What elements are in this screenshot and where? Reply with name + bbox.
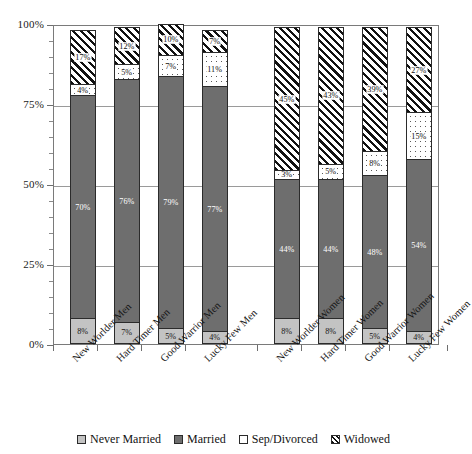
bar-segment-value-label: 7% xyxy=(122,328,133,337)
plot-area: 17%4%70%8%12%5%76%7%10%7%79%5%7%11%77%4%… xyxy=(53,25,439,345)
bar-new-worlder-women[interactable]: 45%3%44%8% xyxy=(274,28,300,344)
bar-segment-value-label: 54% xyxy=(412,241,427,250)
x-axis-tick-mark xyxy=(389,345,390,351)
bar-segment-married[interactable]: 79% xyxy=(158,76,184,329)
bar-new-worlder-men[interactable]: 17%4%70%8% xyxy=(70,31,96,344)
y-axis-tick-label: 75% xyxy=(0,99,44,110)
bar-segment-sep[interactable]: 8% xyxy=(362,151,388,177)
bar-segment-married[interactable]: 70% xyxy=(70,95,96,319)
legend-label: Sep/Divorced xyxy=(252,432,318,447)
legend-swatch-widowed-icon xyxy=(331,435,340,444)
bar-segment-married[interactable]: 76% xyxy=(114,79,140,322)
bar-segment-value-label: 12% xyxy=(119,42,136,51)
y-axis-tick-label: 100% xyxy=(0,19,44,30)
bar-segment-value-label: 5% xyxy=(166,332,177,341)
x-axis-tick-mark xyxy=(53,345,54,351)
bar-segment-value-label: 4% xyxy=(210,333,221,342)
legend-swatch-married-icon xyxy=(174,435,183,444)
bar-segment-value-label: 48% xyxy=(368,248,383,257)
bar-segment-value-label: 10% xyxy=(163,35,180,44)
bar-segment-value-label: 4% xyxy=(77,86,90,95)
bar-lucky-few-men[interactable]: 7%11%77%4% xyxy=(202,31,228,344)
bar-segment-value-label: 4% xyxy=(414,333,425,342)
bar-segment-value-label: 3% xyxy=(281,170,294,179)
x-axis-tick-mark xyxy=(141,345,142,351)
legend-label: Never Married xyxy=(90,432,161,447)
bar-segment-value-label: 70% xyxy=(76,203,91,212)
bar-segment-value-label: 8% xyxy=(326,327,337,336)
legend-item-married[interactable]: Married xyxy=(174,432,226,447)
bar-segment-widowed[interactable]: 12% xyxy=(114,27,140,65)
bar-segment-widowed[interactable]: 45% xyxy=(274,27,300,171)
chart-legend: Never MarriedMarriedSep/DivorcedWidowed xyxy=(0,432,467,447)
y-axis-tick-label: 50% xyxy=(0,179,44,190)
x-axis-tick-mark xyxy=(447,345,448,351)
bar-segment-value-label: 44% xyxy=(280,245,295,254)
bar-segment-value-label: 8% xyxy=(282,327,293,336)
bar-segment-widowed[interactable]: 39% xyxy=(362,27,388,152)
bar-segment-sep[interactable]: 5% xyxy=(114,64,140,80)
bar-segment-value-label: 5% xyxy=(121,68,134,77)
bar-segment-sep[interactable]: 15% xyxy=(406,112,432,160)
legend-swatch-never-icon xyxy=(77,435,86,444)
bar-segment-value-label: 44% xyxy=(324,245,339,254)
bar-segment-sep[interactable]: 5% xyxy=(318,164,344,180)
legend-item-sep[interactable]: Sep/Divorced xyxy=(239,432,318,447)
bar-good-warrior-women[interactable]: 39%8%48%5% xyxy=(362,28,388,344)
bar-segment-value-label: 17% xyxy=(75,53,92,62)
legend-swatch-sep-icon xyxy=(239,435,248,444)
bar-segment-widowed[interactable]: 27% xyxy=(406,27,432,113)
legend-item-never[interactable]: Never Married xyxy=(77,432,161,447)
bar-segment-value-label: 5% xyxy=(370,332,381,341)
x-axis-tick-mark xyxy=(345,345,346,351)
bar-hard-timer-men[interactable]: 12%5%76%7% xyxy=(114,28,140,344)
bar-good-warrior-men[interactable]: 10%7%79%5% xyxy=(158,25,184,344)
bar-segment-value-label: 43% xyxy=(323,91,340,100)
legend-label: Widowed xyxy=(344,432,390,447)
bar-segment-widowed[interactable]: 43% xyxy=(318,27,344,165)
bar-segment-value-label: 7% xyxy=(209,37,222,46)
bar-segment-married[interactable]: 44% xyxy=(274,179,300,320)
bar-segment-value-label: 8% xyxy=(78,327,89,336)
bar-segment-widowed[interactable]: 10% xyxy=(158,24,184,56)
bar-segment-value-label: 15% xyxy=(411,132,428,141)
bar-segment-sep[interactable]: 7% xyxy=(158,55,184,77)
legend-label: Married xyxy=(187,432,226,447)
bar-segment-value-label: 7% xyxy=(165,62,178,71)
bar-segment-sep[interactable]: 11% xyxy=(202,52,228,87)
x-axis-tick-mark xyxy=(301,345,302,351)
y-axis-tick-label: 25% xyxy=(0,259,44,270)
bar-segment-widowed[interactable]: 7% xyxy=(202,30,228,52)
x-axis-tick-mark xyxy=(97,345,98,351)
bar-segment-value-label: 45% xyxy=(279,95,296,104)
legend-item-widowed[interactable]: Widowed xyxy=(331,432,390,447)
bar-segment-value-label: 11% xyxy=(207,65,224,74)
bar-segment-value-label: 79% xyxy=(164,198,179,207)
bar-segment-married[interactable]: 77% xyxy=(202,86,228,332)
y-axis-tick-label: 0% xyxy=(0,339,44,350)
bar-segment-widowed[interactable]: 17% xyxy=(70,30,96,84)
x-axis-tick-mark xyxy=(257,345,258,351)
x-axis-tick-mark xyxy=(185,345,186,351)
bar-segment-value-label: 5% xyxy=(325,167,338,176)
bar-segment-value-label: 76% xyxy=(120,197,135,206)
bar-segment-value-label: 8% xyxy=(369,159,382,168)
bar-segment-value-label: 39% xyxy=(367,85,384,94)
bar-segment-value-label: 27% xyxy=(411,66,428,75)
bar-segment-value-label: 77% xyxy=(208,205,223,214)
